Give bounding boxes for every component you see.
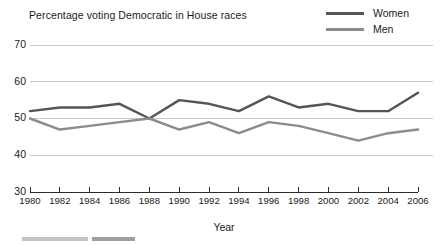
x-axis-tick-label: 1994	[228, 195, 250, 206]
x-axis-tick-label: 2000	[318, 195, 339, 206]
x-axis-group	[30, 187, 418, 192]
x-axis-tick-label: 1998	[288, 195, 309, 206]
y-axis-tick-labels: 3040506070	[14, 38, 26, 197]
x-axis-tick-label: 2004	[377, 195, 399, 206]
x-axis-tick-label: 1992	[198, 195, 219, 206]
gridlines-group	[30, 45, 433, 155]
y-axis-tick-label: 60	[14, 75, 26, 87]
x-axis-title: Year	[213, 221, 235, 233]
series-line-women	[30, 93, 418, 119]
x-axis-tick-label: 1988	[139, 195, 160, 206]
y-axis-tick-label: 50	[14, 111, 26, 123]
x-axis-tick-label: 1982	[49, 195, 70, 206]
x-axis-tick-label: 1980	[19, 195, 40, 206]
series-lines-group	[30, 93, 418, 141]
bottom-toolbar-artifact	[22, 237, 135, 241]
x-axis-tick-labels: 1980198219841986198819901992199419961998…	[19, 195, 428, 206]
x-axis-tick-label: 1986	[109, 195, 130, 206]
y-axis-tick-label: 40	[14, 148, 26, 160]
y-axis-tick-label: 70	[14, 38, 26, 50]
x-axis-tick-label: 2006	[407, 195, 428, 206]
x-axis-tick-label: 1984	[79, 195, 101, 206]
x-axis-tick-label: 2002	[348, 195, 369, 206]
x-axis-tick-label: 1996	[258, 195, 279, 206]
chart-container: Percentage voting Democratic in House ra…	[0, 0, 440, 245]
x-axis-tick-label: 1990	[169, 195, 190, 206]
series-line-men	[30, 119, 418, 141]
plot-area: 3040506070 19801982198419861988199019921…	[0, 0, 440, 245]
